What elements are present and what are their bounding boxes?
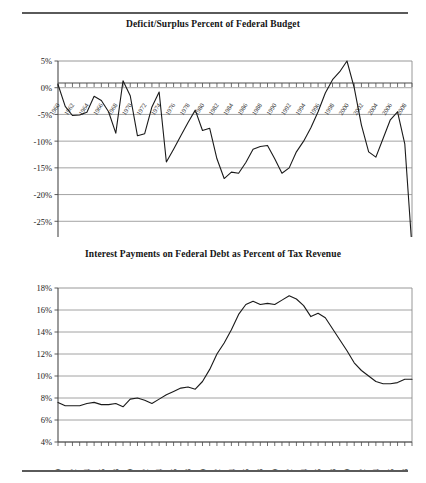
plot-frame — [58, 288, 412, 442]
header-rule — [22, 12, 408, 14]
y-tick-label: 14% — [36, 327, 52, 337]
y-tick-label: 0% — [41, 83, 52, 93]
y-tick-label: 6% — [41, 415, 52, 425]
chart-title-interest-payments: Interest Payments on Federal Debt as Per… — [0, 248, 426, 262]
y-tick-label: -20% — [34, 190, 52, 200]
y-tick-label: 5% — [41, 56, 52, 66]
footer-rule — [22, 470, 408, 472]
y-tick-label: -25% — [34, 217, 52, 227]
y-tick-label: -10% — [34, 137, 52, 147]
x-tick-label: 2004 — [366, 101, 379, 116]
x-tick-label: 1984 — [221, 101, 234, 116]
chart-svg-interest-payments: 18%16%14%12%10%8%6%4%1960196219641966196… — [0, 262, 426, 470]
y-tick-label: 10% — [36, 371, 52, 381]
page-canvas: Deficit/Surplus Percent of Federal Budge… — [0, 0, 426, 483]
x-tick-label: 1994 — [294, 101, 307, 116]
y-tick-label: -15% — [34, 163, 52, 173]
chart-svg-deficit-surplus: 5%0%-5%-10%-15%-20%-25%-30%1960196219641… — [0, 32, 426, 237]
data-series-line — [58, 296, 412, 407]
x-axis — [58, 83, 412, 87]
y-tick-label: 4% — [41, 437, 52, 447]
figure-interest-payments: Interest Payments on Federal Debt as Per… — [0, 248, 426, 470]
chart-canvas-interest-payments: 18%16%14%12%10%8%6%4%1960196219641966196… — [0, 262, 426, 470]
gridlines — [55, 288, 413, 442]
y-tick-label: 18% — [36, 283, 52, 293]
y-tick-label: 16% — [36, 305, 52, 315]
x-tick-labels: 1960196219641966196819701972197419761978… — [48, 101, 408, 116]
x-axis — [58, 442, 412, 446]
y-tick-label: 12% — [36, 349, 52, 359]
y-tick-labels: 18%16%14%12%10%8%6%4% — [36, 283, 52, 447]
y-tick-labels: 5%0%-5%-10%-15%-20%-25%-30% — [34, 56, 52, 237]
figure-deficit-surplus: Deficit/Surplus Percent of Federal Budge… — [0, 18, 426, 238]
y-tick-label: 8% — [41, 393, 52, 403]
gridlines — [55, 61, 413, 237]
chart-title-deficit-surplus: Deficit/Surplus Percent of Federal Budge… — [0, 18, 426, 32]
chart-canvas-deficit-surplus: 5%0%-5%-10%-15%-20%-25%-30%1960196219641… — [0, 32, 426, 237]
